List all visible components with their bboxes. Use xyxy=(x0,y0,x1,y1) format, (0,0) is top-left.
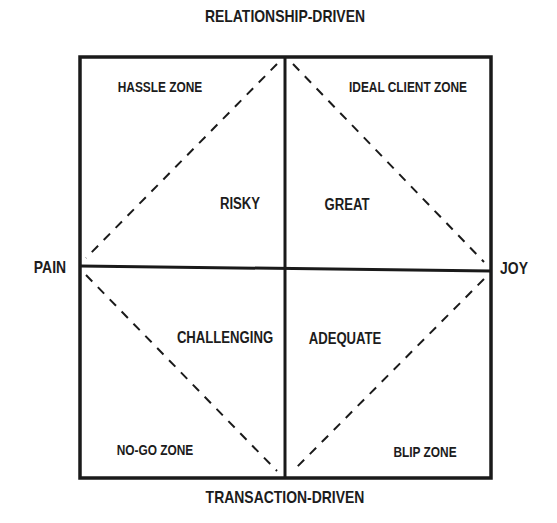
axis-label-bottom: TRANSACTION-DRIVEN xyxy=(187,489,384,506)
inner-label-risky: RISKY xyxy=(199,196,281,212)
zone-label-ideal-client: IDEAL CLIENT ZONE xyxy=(342,80,473,95)
axis-label-left: PAIN xyxy=(27,259,73,276)
zone-label-no-go: NO-GO ZONE xyxy=(106,443,204,458)
zone-label-hassle: HASSLE ZONE xyxy=(111,80,209,95)
inner-label-challenging: CHALLENGING xyxy=(168,330,283,346)
axis-label-top: RELATIONSHIP-DRIVEN xyxy=(187,8,384,25)
quadrant-diagram: RELATIONSHIP-DRIVEN TRANSACTION-DRIVEN P… xyxy=(0,0,557,523)
inner-label-great: GREAT xyxy=(306,197,388,213)
zone-label-blip: BLIP ZONE xyxy=(376,445,474,460)
axis-label-right: JOY xyxy=(498,260,531,277)
inner-label-adequate: ADEQUATE xyxy=(300,331,390,347)
